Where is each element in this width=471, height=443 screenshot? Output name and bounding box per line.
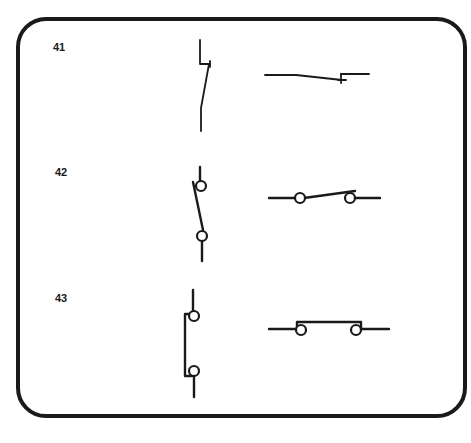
symbol-41-horizontal <box>265 74 369 83</box>
switch-symbols-canvas <box>0 0 471 443</box>
symbol-42-vertical <box>193 167 207 261</box>
symbol-41-vertical <box>200 40 210 131</box>
symbol-43-vertical <box>185 290 199 397</box>
symbol-43-horizontal <box>269 322 389 335</box>
symbol-42-horizontal <box>269 191 380 203</box>
